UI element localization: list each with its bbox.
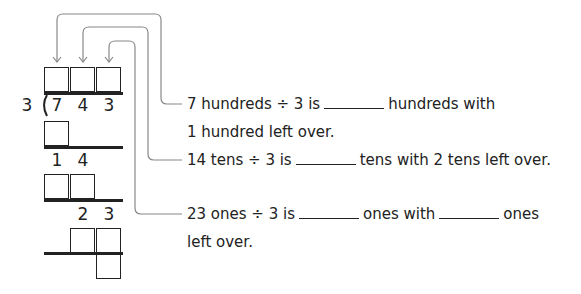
statement-ones-line2: left over.	[187, 233, 253, 251]
step2-digit-4: 4	[70, 152, 96, 169]
subtract-ones-box-1[interactable]	[70, 228, 95, 253]
statement-ones-line1: 23 ones ÷ 3 isones withones	[187, 205, 539, 223]
subtract-line-2	[44, 199, 123, 202]
statement-hundreds-line1: 7 hundreds ÷ 3 ishundreds with	[187, 95, 495, 113]
divisor: 3	[18, 97, 36, 114]
subtract-tens-box-1[interactable]	[44, 174, 69, 199]
dividend-digit-hundreds: 7	[44, 97, 70, 114]
answer-blank-remainder[interactable]	[439, 206, 499, 219]
subtract-tens-box-2[interactable]	[70, 174, 95, 199]
answer-blank-tens[interactable]	[296, 152, 356, 165]
quotient-hundreds-box[interactable]	[44, 67, 69, 92]
step3-digit-2: 2	[70, 206, 96, 223]
quotient-tens-box[interactable]	[70, 67, 95, 92]
dividend-digit-ones: 3	[96, 97, 122, 114]
remainder-box[interactable]	[96, 254, 121, 279]
statement-tens: 14 tens ÷ 3 istens with 2 tens left over…	[187, 151, 551, 169]
answer-blank-hundreds[interactable]	[324, 96, 384, 109]
step3-digit-3: 3	[96, 206, 122, 223]
subtract-ones-box-2[interactable]	[96, 228, 121, 253]
subtract-line-1	[44, 146, 123, 149]
subtract-hundreds-box[interactable]	[44, 121, 69, 146]
quotient-ones-box[interactable]	[96, 67, 121, 92]
answer-blank-ones[interactable]	[299, 206, 359, 219]
dividend-digit-tens: 4	[70, 97, 96, 114]
step2-digit-1: 1	[44, 152, 70, 169]
statement-hundreds-line2: 1 hundred left over.	[187, 123, 335, 141]
